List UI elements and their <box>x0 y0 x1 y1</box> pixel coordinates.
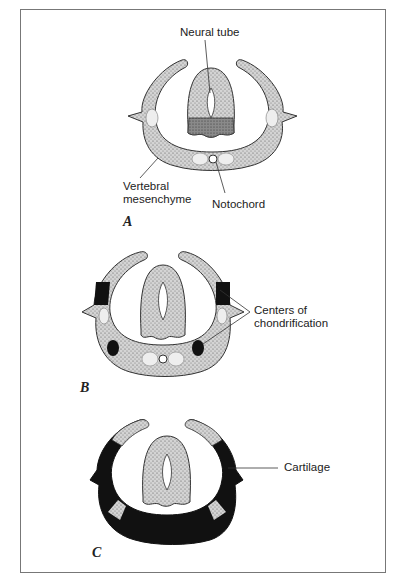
figure-b <box>82 252 250 377</box>
label-notochord: Notochord <box>212 198 265 211</box>
label-centers-1: Centers of <box>254 304 307 317</box>
notochord <box>209 155 217 163</box>
panel-label-a: A <box>123 214 132 230</box>
panel-label-b: B <box>80 380 89 396</box>
figure-c <box>90 420 278 545</box>
figure-a <box>128 40 297 193</box>
chondrification-center-right <box>216 282 230 305</box>
label-cartilage: Cartilage <box>284 461 330 474</box>
embryo-diagram <box>0 0 398 583</box>
label-neural-tube: Neural tube <box>180 26 239 39</box>
label-vertebral-mesenchyme-2: mesenchyme <box>123 193 191 206</box>
panel-label-c: C <box>92 545 101 561</box>
label-vertebral-mesenchyme-1: Vertebral <box>123 180 169 193</box>
chondrification-center-left <box>94 282 110 305</box>
label-centers-2: chondrification <box>254 317 328 330</box>
